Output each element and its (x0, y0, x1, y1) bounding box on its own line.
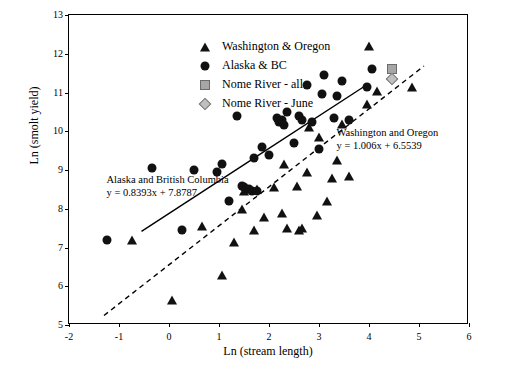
x-tick-label: 3 (308, 331, 330, 342)
data-point-circle (250, 154, 259, 163)
x-tick-label: 5 (408, 331, 430, 342)
data-point-triangle (217, 270, 227, 279)
x-tick-mark (469, 323, 470, 327)
y-tick-label: 8 (41, 203, 63, 214)
data-point-triangle (237, 204, 247, 213)
data-point-circle (217, 160, 226, 169)
legend-item-washington-oregon: Washington & Oregon (194, 37, 330, 56)
x-axis-title: Ln (stream length) (68, 344, 468, 359)
x-tick-mark (69, 323, 70, 327)
legend-item-alaska-bc: Alaska & BC (194, 56, 330, 75)
data-point-triangle (229, 237, 239, 246)
y-tick-label: 6 (41, 280, 63, 291)
data-point-triangle (327, 173, 337, 182)
data-point-circle (332, 92, 341, 101)
x-tick-label: -2 (58, 331, 80, 342)
diamond-icon (194, 97, 216, 111)
x-tick-label: 4 (358, 331, 380, 342)
data-point-triangle (312, 210, 322, 219)
circle-icon (194, 59, 216, 73)
data-point-triangle (167, 295, 177, 304)
x-tick-mark (319, 323, 320, 327)
annotation-line-1: Washington and Oregon (337, 126, 439, 139)
y-tick-mark (65, 131, 69, 132)
annotation-line-1: Alaska and British Columbia (107, 173, 229, 186)
data-point-triangle (292, 181, 302, 190)
y-tick-mark (65, 170, 69, 171)
legend-label: Alaska & BC (222, 58, 287, 73)
y-tick-mark (65, 248, 69, 249)
plot-area: Washington & Oregon Alaska & BC Nome Riv… (68, 14, 468, 324)
y-tick-label: 10 (41, 125, 63, 136)
x-tick-label: 0 (158, 331, 180, 342)
data-point-triangle (277, 208, 287, 217)
data-point-circle (367, 65, 376, 74)
x-tick-label: 1 (208, 331, 230, 342)
chart-root: Washington & Oregon Alaska & BC Nome Riv… (0, 0, 513, 373)
data-point-triangle (249, 226, 259, 235)
alaska-bc-regression-label: Alaska and British Columbia y = 0.8393x … (107, 173, 229, 199)
data-point-circle (177, 226, 186, 235)
legend-label: Nome River - June (222, 96, 313, 111)
x-tick-mark (269, 323, 270, 327)
data-point-triangle (362, 100, 372, 109)
data-point-triangle (259, 212, 269, 221)
y-tick-mark (65, 54, 69, 55)
y-axis-title: Ln (smolt yield) (27, 46, 42, 206)
x-tick-mark (419, 323, 420, 327)
chart-legend: Washington & Oregon Alaska & BC Nome Riv… (194, 37, 330, 113)
data-point-circle (337, 76, 346, 85)
x-tick-label: -1 (108, 331, 130, 342)
legend-item-nome-river-june: Nome River - June (194, 94, 330, 113)
data-point-circle (252, 187, 261, 196)
data-point-circle (265, 150, 274, 159)
y-tick-mark (65, 15, 69, 16)
annotation-line-2: y = 0.8393x + 7.8787 (107, 186, 229, 199)
data-point-circle (280, 121, 289, 130)
data-point-circle (362, 82, 371, 91)
data-point-triangle (407, 82, 417, 91)
data-point-triangle (314, 133, 324, 142)
y-tick-label: 12 (41, 48, 63, 59)
triangle-icon (194, 40, 216, 54)
legend-label: Washington & Oregon (222, 39, 330, 54)
data-point-circle (147, 164, 156, 173)
washington-oregon-regression-label: Washington and Oregon y = 1.006x + 6.553… (337, 126, 439, 152)
legend-label: Nome River - all (222, 77, 303, 92)
y-tick-label: 9 (41, 164, 63, 175)
annotation-line-2: y = 1.006x + 6.5539 (337, 139, 439, 152)
data-point-circle (307, 117, 316, 126)
data-point-triangle (279, 160, 289, 169)
y-tick-mark (65, 286, 69, 287)
y-tick-label: 13 (41, 9, 63, 20)
x-tick-mark (169, 323, 170, 327)
x-tick-mark (119, 323, 120, 327)
data-point-circle (330, 113, 339, 122)
data-point-circle (297, 115, 306, 124)
data-point-triangle (197, 222, 207, 231)
data-point-triangle (282, 224, 292, 233)
data-point-circle (257, 142, 266, 151)
data-point-circle (102, 235, 111, 244)
data-point-triangle (297, 224, 307, 233)
x-tick-label: 6 (458, 331, 480, 342)
square-icon (194, 78, 216, 92)
data-point-triangle (344, 171, 354, 180)
data-point-triangle (269, 183, 279, 192)
data-point-triangle (364, 42, 374, 51)
data-point-circle (290, 138, 299, 147)
legend-item-nome-river-all: Nome River - all (194, 75, 330, 94)
data-point-circle (345, 115, 354, 124)
x-tick-mark (219, 323, 220, 327)
y-tick-mark (65, 209, 69, 210)
x-tick-mark (369, 323, 370, 327)
y-tick-mark (65, 93, 69, 94)
data-point-triangle (332, 156, 342, 165)
data-point-triangle (302, 167, 312, 176)
data-point-triangle (127, 235, 137, 244)
data-point-triangle (372, 86, 382, 95)
data-point-triangle (322, 197, 332, 206)
y-tick-label: 7 (41, 242, 63, 253)
y-tick-label: 11 (41, 87, 63, 98)
data-point-circle (315, 144, 324, 153)
